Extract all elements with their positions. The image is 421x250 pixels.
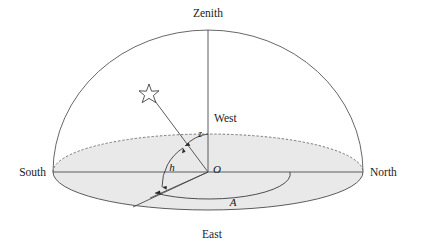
label-zenith-distance: z bbox=[197, 129, 202, 139]
label-north: North bbox=[370, 166, 397, 178]
celestial-sphere-diagram: Zenith North South East West O z h A bbox=[0, 0, 421, 250]
celestial-sphere-figure: Zenith North South East West O z h A bbox=[0, 0, 421, 250]
label-south: South bbox=[19, 166, 46, 178]
label-west: West bbox=[214, 112, 238, 124]
label-origin: O bbox=[213, 163, 221, 175]
star-icon bbox=[139, 84, 159, 103]
label-zenith: Zenith bbox=[193, 7, 223, 19]
label-azimuth: A bbox=[229, 196, 237, 208]
label-altitude: h bbox=[169, 161, 175, 173]
label-east: East bbox=[202, 228, 223, 240]
